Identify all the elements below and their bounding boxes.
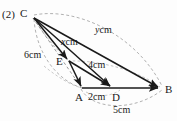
vertex-label-c: C	[20, 8, 27, 19]
arc-e-to-b-inner	[68, 61, 160, 87]
vertex-label-e: E	[56, 56, 63, 67]
problem-number: (2)	[2, 9, 15, 20]
length-label-ad: 2cm	[88, 92, 105, 102]
length-label-ab: 5cm	[113, 105, 130, 115]
length-label-ce: xcm	[61, 37, 78, 47]
vertex-label-d: D	[112, 92, 120, 103]
length-label-ce-unit: cm	[65, 36, 77, 47]
length-label-ed: 4cm	[88, 60, 105, 70]
length-label-ca: 6cm	[24, 50, 41, 60]
geometry-figure: (2) C E A D B 6cm xcm ycm 4cm 2cm 5cm	[0, 0, 177, 121]
vertex-label-a: A	[75, 92, 83, 103]
length-label-cb-unit: cm	[99, 24, 111, 35]
length-label-cb: ycm	[95, 25, 112, 35]
vertex-label-b: B	[165, 84, 172, 95]
